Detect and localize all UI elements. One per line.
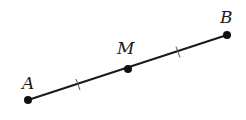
point-b bbox=[223, 31, 231, 39]
point-a bbox=[24, 96, 32, 104]
diagram-canvas: A M B bbox=[0, 0, 246, 120]
label-point-a: A bbox=[20, 73, 34, 93]
label-point-m: M bbox=[116, 38, 135, 58]
label-point-b: B bbox=[219, 7, 233, 27]
point-m bbox=[124, 65, 132, 73]
